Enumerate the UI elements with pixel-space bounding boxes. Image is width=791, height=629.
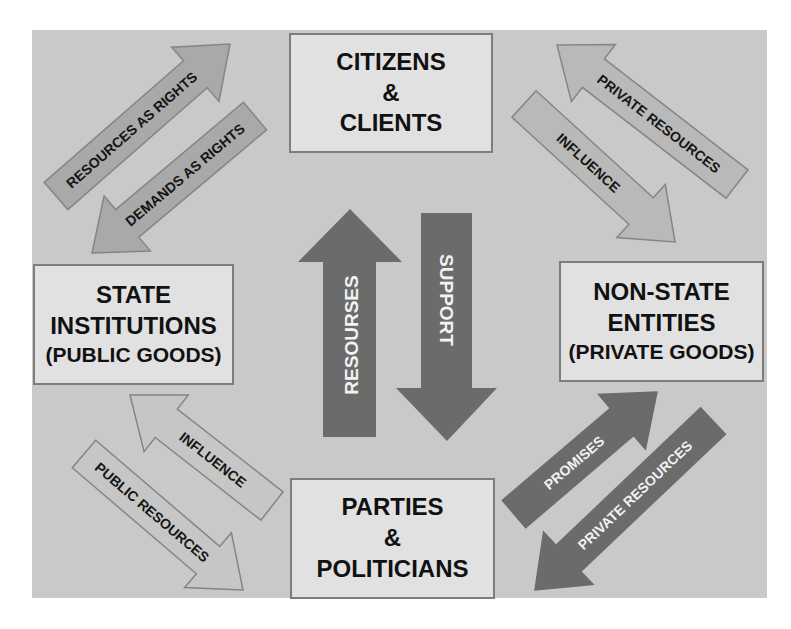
center-arrow-support: SUPPORT bbox=[396, 213, 497, 441]
node-state-line3: (PUBLIC GOODS) bbox=[45, 342, 221, 369]
node-state-line1: STATE bbox=[96, 280, 171, 311]
diagram-canvas: RESOURSES SUPPORT RESOURCES AS RIGHTSDEM… bbox=[0, 0, 791, 629]
node-nonstate-line1: NON-STATE bbox=[593, 277, 729, 308]
node-parties-line3: POLITICIANS bbox=[316, 554, 468, 585]
node-parties-line1: PARTIES bbox=[341, 492, 443, 523]
node-nonstate-line3: (PRIVATE GOODS) bbox=[569, 339, 755, 366]
node-state-line2: INSTITUTIONS bbox=[50, 311, 217, 342]
node-citizens-line2: & bbox=[382, 78, 399, 109]
node-parties-line2: & bbox=[384, 523, 401, 554]
node-citizens-line1: CITIZENS bbox=[336, 47, 445, 78]
node-nonstate-line2: ENTITIES bbox=[607, 308, 715, 339]
node-non-state-entities: NON-STATE ENTITIES (PRIVATE GOODS) bbox=[559, 261, 764, 382]
arrow-label: PUBLIC RESOURCES bbox=[92, 459, 212, 565]
node-citizens-line3: CLIENTS bbox=[340, 108, 443, 139]
node-state-institutions: STATE INSTITUTIONS (PUBLIC GOODS) bbox=[33, 264, 234, 385]
center-arrow-resources-label: RESOURSES bbox=[341, 275, 362, 394]
node-parties-politicians: PARTIES & POLITICIANS bbox=[290, 478, 495, 599]
arrow-label: PRIVATE RESOURCES bbox=[594, 71, 723, 176]
center-arrow-resources: RESOURSES bbox=[298, 209, 402, 437]
center-arrow-support-label: SUPPORT bbox=[436, 254, 457, 346]
node-citizens-clients: CITIZENS & CLIENTS bbox=[289, 33, 493, 153]
